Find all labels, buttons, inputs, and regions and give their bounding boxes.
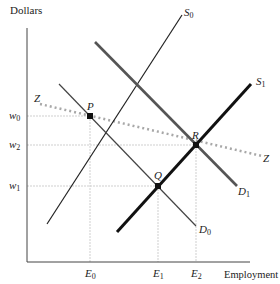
point-label-q: Q: [154, 170, 162, 181]
employment-label-e1: E1: [153, 268, 164, 281]
point-label-r: R: [192, 130, 199, 141]
wage-label-w0: w0: [9, 110, 20, 123]
curve-label-d0: D0: [199, 224, 211, 237]
curve-label-z-left: Z: [34, 93, 40, 104]
employment-label-e2: E2: [191, 268, 202, 281]
curve-label-s1: S1: [256, 76, 266, 89]
point-label-p: P: [87, 101, 94, 112]
z-line: [40, 104, 262, 156]
demand-curve-d1: [95, 42, 237, 186]
supply-curve-s0: [47, 15, 182, 224]
supply-curve-s1: [117, 84, 251, 232]
employment-label-e0: E0: [85, 268, 96, 281]
x-axis-label: Employment: [224, 270, 278, 281]
y-axis-label: Dollars: [10, 5, 42, 16]
wage-label-w1: w1: [9, 180, 20, 193]
wage-label-w2: w2: [9, 139, 20, 152]
labor-market-diagram: [0, 0, 280, 284]
curve-label-z-right: Z: [263, 153, 269, 164]
demand-curve-d0: [59, 84, 196, 226]
curve-label-d1: D1: [238, 186, 250, 199]
point-r: [193, 142, 199, 148]
point-q: [155, 183, 161, 189]
curve-label-s0: S0: [184, 7, 194, 20]
point-p: [87, 113, 93, 119]
